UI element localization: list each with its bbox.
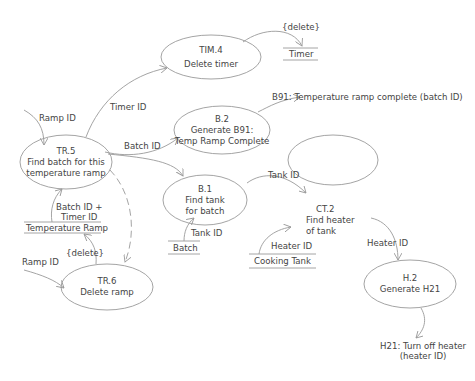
- flow-label-batch-timer-id-line1: Batch ID +: [56, 202, 103, 212]
- process-tr6[interactable]: TR.6 Delete ramp: [61, 266, 153, 308]
- store-temperature-ramp[interactable]: Temperature Ramp: [26, 223, 108, 233]
- process-b2[interactable]: B.2 Generate B91: Temp Ramp Complete: [174, 108, 270, 152]
- flow-label-delete-timer: {delete}: [282, 22, 320, 32]
- flow-label-ramp-id: Ramp ID: [39, 113, 76, 123]
- store-cooking-tank[interactable]: Cooking Tank: [254, 256, 311, 266]
- process-ct2-line2: of tank: [306, 226, 336, 237]
- process-b2-line1: Generate B91:: [191, 125, 254, 136]
- process-tim4-name: Delete timer: [184, 59, 238, 70]
- process-b2-line2: Temp Ramp Complete: [175, 136, 270, 147]
- process-b1-line2: for batch: [186, 206, 225, 217]
- process-tim4[interactable]: TIM.4 Delete timer: [161, 37, 261, 77]
- process-b1-line1: Find tank: [185, 195, 224, 206]
- process-ct2-shape[interactable]: [288, 135, 378, 185]
- flow-label-heater-id-in: Heater ID: [271, 241, 312, 251]
- flow-label-h21-event-line1: H21: Turn off heater: [380, 341, 466, 351]
- process-b1[interactable]: B.1 Find tank for batch: [163, 178, 247, 222]
- store-batch[interactable]: Batch: [173, 243, 198, 253]
- process-tr5-line1: Find batch for this: [27, 157, 105, 168]
- flow-label-h21-event-line2: (heater ID): [380, 351, 466, 361]
- process-tr5[interactable]: TR.5 Find batch for this temperature ram…: [20, 139, 112, 185]
- process-b1-id: B.1: [198, 184, 212, 195]
- flow-label-b91-event: B91: Temperature ramp complete (batch ID…: [272, 92, 463, 102]
- process-tim4-id: TIM.4: [199, 45, 222, 56]
- flow-label-heater-id-out: Heater ID: [367, 238, 408, 248]
- flow-label-batch-timer-id-line2: Timer ID: [56, 212, 103, 222]
- flow-label-timer-id: Timer ID: [110, 102, 146, 112]
- flow-label-h21-event: H21: Turn off heater (heater ID): [380, 341, 466, 361]
- process-ct2-line1: Find heater: [306, 215, 355, 226]
- flow-label-delete-ramp: {delete}: [66, 248, 104, 258]
- process-b2-id: B.2: [215, 114, 229, 125]
- process-tr6-name: Delete ramp: [80, 287, 134, 298]
- flow-label-tank-id-in: Tank ID: [191, 228, 222, 238]
- flow-label-batch-timer-id: Batch ID + Timer ID: [56, 202, 103, 222]
- flow-label-batch-id: Batch ID: [124, 141, 161, 151]
- process-tr5-id: TR.5: [56, 146, 75, 157]
- data-flow-diagram: TIM.4 Delete timer B.2 Generate B91: Tem…: [0, 0, 475, 381]
- store-timer[interactable]: Timer: [289, 49, 314, 59]
- process-h2-id: H.2: [403, 273, 418, 284]
- flow-label-tank-id-out: Tank ID: [268, 170, 299, 180]
- process-tr6-id: TR.6: [97, 276, 116, 287]
- process-h2-name: Generate H21: [380, 284, 440, 295]
- process-ct2[interactable]: CT.2 Find heater of tank: [288, 198, 378, 242]
- process-tr5-line2: temperature ramp: [26, 168, 105, 179]
- process-ct2-id: CT.2: [306, 204, 334, 215]
- flow-label-ramp-id-tr6: Ramp ID: [22, 257, 59, 267]
- process-h2[interactable]: H.2 Generate H21: [364, 262, 456, 306]
